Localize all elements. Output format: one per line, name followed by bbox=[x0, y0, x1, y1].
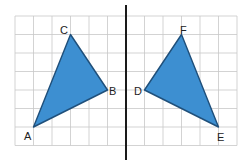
reflection-diagram: A B C D E F bbox=[0, 0, 250, 166]
vertex-label-f: F bbox=[180, 24, 187, 36]
vertex-label-b: B bbox=[109, 85, 116, 97]
vertex-label-d: D bbox=[134, 85, 142, 97]
vertex-label-a: A bbox=[24, 130, 32, 142]
vertex-label-e: E bbox=[217, 131, 224, 143]
vertex-label-c: C bbox=[60, 24, 68, 36]
